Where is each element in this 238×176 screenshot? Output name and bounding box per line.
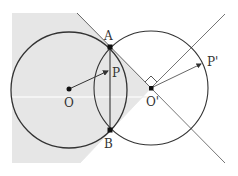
label-O-prime: O' [146, 95, 159, 109]
point-O-prime [149, 86, 154, 91]
label-P-prime: P' [207, 55, 218, 69]
right-angle-mark [145, 76, 157, 82]
geometry-figure: A B O O' P P' [0, 0, 238, 176]
label-A: A [103, 29, 113, 43]
point-A [108, 45, 113, 50]
arrow-Oprime-to-Pprime [151, 64, 201, 88]
ray-lower-right [151, 88, 225, 163]
point-B [108, 128, 113, 133]
point-O [67, 87, 72, 92]
label-P: P [112, 66, 120, 80]
label-B: B [104, 137, 113, 151]
ray-upper-right [151, 14, 225, 88]
label-O: O [64, 96, 74, 110]
